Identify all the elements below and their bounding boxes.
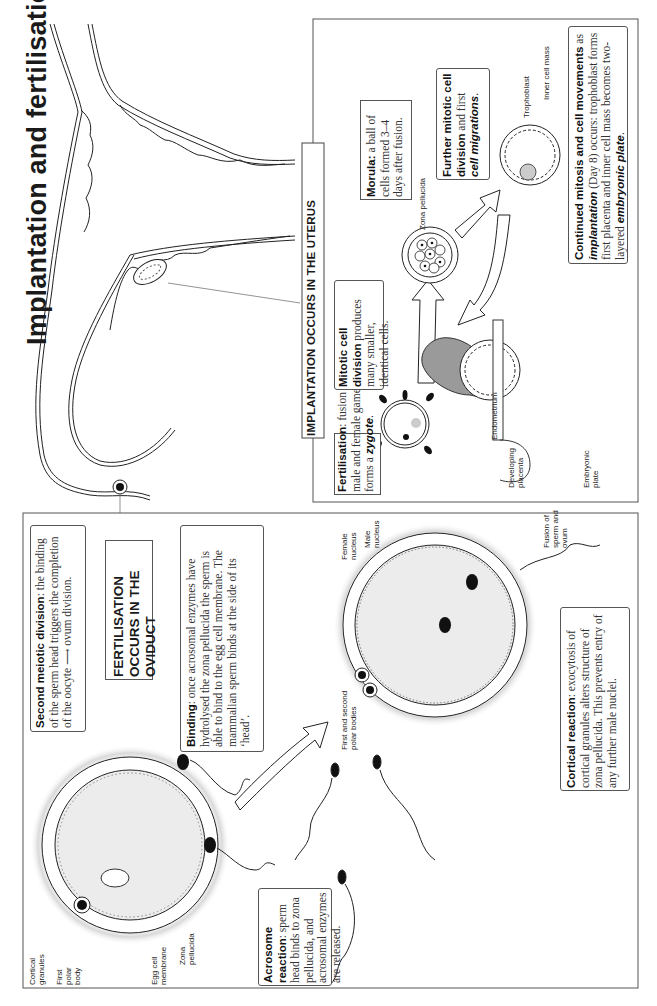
- label-developing-placenta: Developing placenta: [507, 444, 525, 488]
- fertilisation-header: FERTILISATION OCCURS IN THE OVIDUCT: [111, 543, 159, 677]
- label-zona-pellucida-egg: Zona pellucida: [178, 925, 196, 965]
- label-egg-cell-membrane: Egg cell membrane: [150, 939, 168, 985]
- label-trophoblast: Trophoblast: [522, 76, 531, 118]
- arrow-to-blastocyst: [455, 190, 500, 238]
- page-title: Implantation and fertilisation: [22, 0, 53, 345]
- morula-box: Morula: a ball of cells formed 3–4 days …: [360, 100, 412, 200]
- fertilisation-box: Fertilisation: fusion of male and female…: [334, 433, 381, 495]
- blastocyst-drawing: [500, 125, 560, 185]
- egg-fertilisation-drawing: [30, 745, 275, 945]
- label-fusion: Fusion of sperm and ovum: [542, 506, 569, 548]
- further-mitotic-box: Further mitotic cell division and first …: [436, 68, 490, 180]
- label-embryonic-plate: Embryonic plate: [582, 444, 600, 488]
- fertilisation-header-box: FERTILISATION OCCURS IN THE OVIDUCT: [105, 540, 153, 680]
- label-first-second-polar-bodies: First and second polar bodies: [340, 680, 358, 750]
- label-first-polar-body: First polar body: [55, 957, 82, 985]
- zygote-drawing: [372, 390, 435, 456]
- label-endometrium: Endometrium: [490, 392, 499, 440]
- label-female-nucleus: Female nucleus: [340, 526, 358, 560]
- second-meiotic-box: Second meiotic division: the binding of …: [30, 525, 86, 732]
- label-male-nucleus: Male nucleus: [363, 514, 381, 548]
- label-inner-cell-mass: Inner cell mass: [542, 46, 551, 100]
- mitotic-division-box: Mitotic cell division produces many smal…: [334, 280, 384, 390]
- diagram-artwork: [0, 0, 657, 1006]
- label-cortical-granules: Cortical granules: [28, 945, 46, 985]
- binding-box: Binding: once acrosomal enzymes have hyd…: [180, 525, 264, 752]
- label-zona-pellucida-morula: Zona pellucida: [418, 178, 427, 230]
- continued-mitosis-box: Continued mitosis and cell movements as …: [568, 26, 628, 264]
- acrosome-box: Acrosome reaction: sperm head binds to z…: [258, 888, 332, 986]
- implantation-header: IMPLANTATION OCCURS IN THE UTERUS: [305, 200, 317, 436]
- cortical-reaction-box: Cortical reaction: exocytosis of cortica…: [560, 607, 630, 791]
- morula-drawing: [402, 227, 458, 283]
